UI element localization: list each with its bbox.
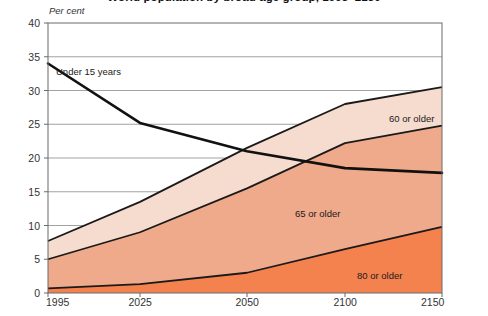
y-axis-tick-label: 35	[0, 52, 40, 62]
y-axis-tick-label: 20	[0, 153, 40, 163]
series-annotation-label: 65 or older	[295, 208, 340, 219]
series-annotation-label: Under 15 years	[56, 66, 121, 77]
x-axis-tick-label: 2025	[129, 297, 152, 308]
x-axis-tick-label: 1995	[46, 297, 69, 308]
y-axis-tick-label: 10	[0, 221, 40, 231]
x-axis-tick-label: 2050	[236, 297, 259, 308]
y-axis-tick-label: 15	[0, 187, 40, 197]
y-axis-tick-label: 25	[0, 119, 40, 129]
y-axis-tick-label: 40	[0, 18, 40, 28]
y-axis-tick-label: 5	[0, 254, 40, 264]
series-annotation-label: 60 or older	[389, 113, 434, 124]
x-axis-tick-label: 2100	[334, 297, 357, 308]
series-annotation-label: 80 or older	[357, 270, 402, 281]
y-axis-tick-label: 0	[0, 288, 40, 298]
chart-container: World population by broad age group, 199…	[0, 0, 488, 316]
y-axis-tick-label: 30	[0, 86, 40, 96]
x-axis-tick-label: 2150	[421, 297, 444, 308]
chart-plot-area	[0, 0, 488, 316]
